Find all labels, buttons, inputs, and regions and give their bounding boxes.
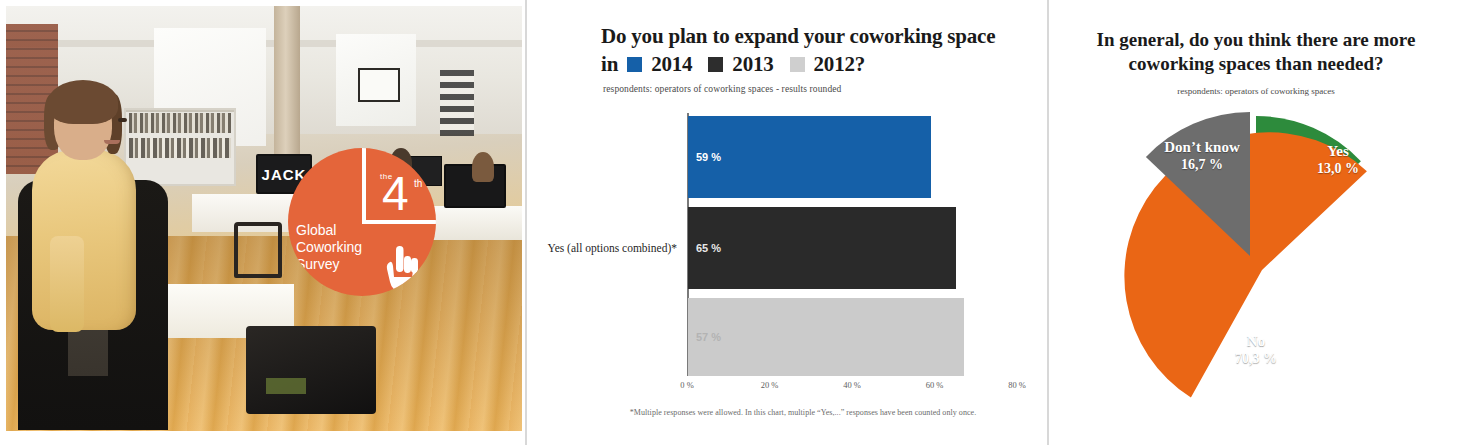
xtick-0: 0 %: [680, 380, 693, 390]
photo-column: [274, 6, 300, 166]
badge-line-1: Global: [296, 222, 362, 239]
pie-label-dont-know: Don’t know 16,7 %: [1136, 138, 1268, 173]
badge-line-3: Survey: [296, 256, 362, 273]
bar-chart-subtitle: respondents: operators of coworking spac…: [603, 84, 841, 94]
bar-chart-legend-row: in 2014 2013 2012?: [601, 52, 1021, 78]
badge-ordinal: th: [414, 178, 422, 189]
bar-fill-2013: 65 %: [688, 207, 956, 289]
bar-chart-title-question-mark: ?: [855, 52, 865, 78]
pie-chart-title: In general, do you think there are more …: [1049, 28, 1463, 76]
survey-infographic-page: JACK: [0, 0, 1463, 445]
photo-person-hair-top: [48, 80, 118, 124]
pie-chart-title-line1: In general, do you think there are more: [1081, 28, 1431, 52]
pie-chart-graphic: Yes 13,0 % Don’t know 16,7 % No 70,3 %: [1100, 108, 1412, 420]
bar-chart-x-axis: 0 % 20 % 40 % 60 % 80 %: [687, 380, 1017, 396]
pie-label-no: No 70,3 %: [1190, 332, 1322, 367]
pie-label-dont-know-name: Don’t know: [1136, 138, 1268, 156]
photo-fabric-hanging: [440, 70, 474, 136]
xtick-20: 20 %: [761, 380, 779, 390]
badge-survey-name: Global Coworking Survey: [296, 222, 362, 273]
pie-label-no-value: 70,3 %: [1190, 350, 1322, 367]
pie-label-yes-value: 13,0 %: [1296, 160, 1380, 177]
photo-equipment-case: [246, 326, 376, 414]
xtick-80: 80 %: [1008, 380, 1026, 390]
photo-person-eye-right: [118, 118, 127, 122]
bar-chart-title-in: in: [601, 52, 618, 78]
legend-label-2013: 2013: [732, 52, 773, 78]
pie-chart-subtitle: respondents: operators of coworking spac…: [1049, 86, 1463, 96]
photo-person-scarf: [32, 150, 136, 330]
legend-swatch-2013: [708, 57, 723, 72]
bar-chart-footnote: *Multiple responses were allowed. In thi…: [571, 408, 1035, 417]
photo-desk-right: [426, 206, 522, 240]
pie-label-no-name: No: [1190, 332, 1322, 350]
bar-value-2014: 59 %: [696, 151, 721, 163]
bar-chart-plot-area: Yes (all options combined)* 59 % 65 % 57…: [687, 113, 1017, 376]
bar-row-2014[interactable]: 59 %: [688, 116, 931, 198]
xtick-40: 40 %: [843, 380, 861, 390]
pie-chart-panel: In general, do you think there are more …: [1049, 0, 1463, 445]
photo-wall-art: [358, 68, 400, 102]
hand-pointer-icon: [384, 244, 426, 294]
bar-chart-title-line1: Do you plan to expand your coworking spa…: [601, 24, 1021, 50]
bar-fill-2014: 59 %: [688, 116, 931, 198]
photo-chair: [234, 222, 282, 278]
legend-label-2014: 2014: [651, 52, 692, 78]
coworking-space-photo: JACK: [6, 6, 522, 431]
bar-row-2012[interactable]: 57 %: [688, 298, 964, 376]
bar-value-2012: 57 %: [696, 331, 721, 343]
bar-chart-panel: Do you plan to expand your coworking spa…: [527, 0, 1047, 445]
pie-label-yes: Yes 13,0 %: [1296, 142, 1380, 177]
photo-person-mouth: [104, 140, 120, 144]
bar-value-2013: 65 %: [696, 242, 721, 254]
pie-label-dont-know-value: 16,7 %: [1136, 156, 1268, 173]
badge-line-2: Coworking: [296, 239, 362, 256]
xtick-60: 60 %: [926, 380, 944, 390]
photo-background-person-2: [472, 152, 494, 182]
bar-chart-title: Do you plan to expand your coworking spa…: [601, 24, 1021, 77]
photo-panel: JACK: [0, 0, 525, 445]
bar-category-label: Yes (all options combined)*: [548, 242, 677, 254]
photo-foreground-person: [24, 88, 176, 428]
legend-swatch-2012: [790, 57, 805, 72]
legend-swatch-2014: [627, 57, 642, 72]
badge-notch-vertical: [362, 148, 366, 224]
bar-row-2013[interactable]: 65 %: [688, 207, 956, 289]
survey-badge[interactable]: the 4 th Global Coworking Survey: [288, 148, 436, 296]
bar-fill-2012: 57 %: [688, 298, 964, 376]
bottom-caption: [118, 433, 538, 445]
legend-label-2012: 2012: [814, 52, 855, 78]
badge-number: 4: [382, 170, 409, 218]
pie-chart-title-line2: coworking spaces than needed?: [1081, 52, 1431, 76]
pie-label-yes-name: Yes: [1296, 142, 1380, 160]
badge-notch-horizontal: [362, 220, 436, 224]
